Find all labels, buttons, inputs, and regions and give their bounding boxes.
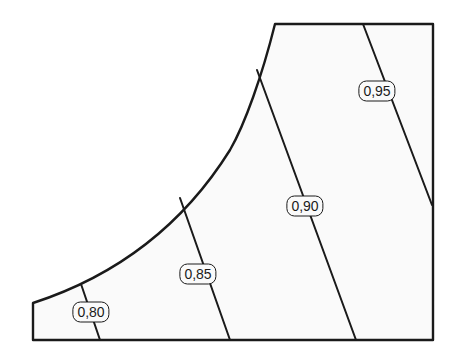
region-boundary	[33, 24, 433, 340]
contour-diagram	[0, 0, 458, 362]
contour-label-0-95: 0,95	[358, 81, 395, 102]
contour-label-0-80: 0,80	[72, 302, 109, 323]
contour-label-0-85: 0,85	[179, 264, 216, 285]
contour-label-0-90: 0,90	[286, 196, 323, 217]
